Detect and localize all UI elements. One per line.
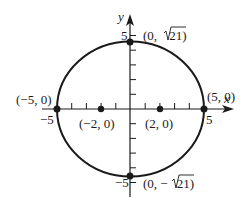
svg-text:(0, −21): (0, −21) <box>143 176 194 191</box>
x-tick-label-5: 5 <box>206 112 213 127</box>
y-axis-label: y <box>116 9 124 24</box>
vertex-left-point <box>54 106 61 113</box>
focus-right-label: (2, 0) <box>145 116 173 131</box>
x-tick-label-neg5: −5 <box>40 112 54 127</box>
vertex-right-label: (5, 0) <box>207 89 235 104</box>
covertex-top-point <box>127 39 134 46</box>
focus-right-point <box>157 106 163 112</box>
vertex-right-point <box>201 106 208 113</box>
covertex-top-label: (0, 21) <box>143 27 187 43</box>
covertex-bottom-label: (0, −21) <box>143 175 194 191</box>
focus-left-label: (−2, 0) <box>79 116 115 131</box>
y-tick-label-5: 5 <box>121 28 128 43</box>
focus-left-point <box>98 106 104 112</box>
ellipse-diagram: y x 5 −5 −5 5 (−5, 0) (5, 0) (−2, 0) (2,… <box>0 0 247 205</box>
svg-text:(0, 21): (0, 21) <box>143 28 187 43</box>
vertex-left-label: (−5, 0) <box>16 92 52 107</box>
covertex-bottom-point <box>127 173 134 180</box>
